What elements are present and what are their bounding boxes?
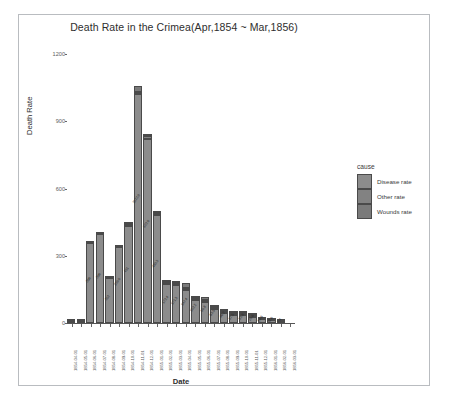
x-tick-mark xyxy=(224,324,225,327)
bar-segment-wounds-rate xyxy=(182,283,190,288)
legend-item-other-rate[interactable]: Other rate xyxy=(357,189,429,204)
x-tick-label: 1855-12-01 xyxy=(263,350,268,371)
x-tick-label: 1854-08-01 xyxy=(111,350,116,371)
y-tick-label: 600 xyxy=(56,186,65,192)
bar-1854-07-01[interactable]: 396 xyxy=(96,232,104,323)
bar-segment-disease-rate xyxy=(86,243,94,323)
bar-1855-08-01[interactable]: 46.2 xyxy=(220,309,228,323)
bar-segment-other-rate xyxy=(162,282,170,284)
bar-segment-disease-rate xyxy=(210,309,218,323)
bar-1855-06-01[interactable]: 95.8 xyxy=(201,297,209,323)
bar-series-container: 356396202339.84311022.8822.8480.3172.417… xyxy=(67,43,295,323)
bar-segment-disease-rate xyxy=(172,285,180,323)
legend-item-wounds-rate[interactable]: Wounds rate xyxy=(357,204,429,219)
bar-1854-06-01[interactable]: 356 xyxy=(86,241,94,323)
x-tick-label: 1854-04-01 xyxy=(73,350,78,371)
bar-1854-10-01[interactable]: 431 xyxy=(124,222,132,323)
legend-swatch xyxy=(357,189,372,204)
bar-segment-disease-rate xyxy=(96,234,104,323)
x-tick-mark xyxy=(119,324,120,327)
bar-segment-disease-rate xyxy=(182,290,190,323)
bar-segment-other-rate xyxy=(115,245,123,247)
x-tick-label: 1855-01-01 xyxy=(159,350,164,371)
legend-title: cause xyxy=(357,163,429,170)
legend-label: Disease rate xyxy=(377,178,412,185)
bar-1854-08-01[interactable]: 202 xyxy=(105,276,113,323)
bar-1855-03-01[interactable]: 171.3 xyxy=(172,281,180,323)
x-tick-mark xyxy=(176,324,177,327)
bar-1855-10-01[interactable]: 33.8 xyxy=(239,311,247,323)
x-tick-mark xyxy=(157,324,158,327)
bar-segment-wounds-rate xyxy=(143,134,151,136)
x-tick-label: 1855-03-01 xyxy=(178,350,183,371)
bar-1855-04-01[interactable]: 147.4 xyxy=(182,283,190,323)
bar-1854-09-01[interactable]: 339.8 xyxy=(115,245,123,323)
x-tick-mark xyxy=(243,324,244,327)
x-tick-label: 1855-04-01 xyxy=(187,350,192,371)
bar-segment-wounds-rate xyxy=(248,313,256,315)
x-tick-label: 1854-06-01 xyxy=(92,350,97,371)
x-tick-label: 1855-05-01 xyxy=(197,350,202,371)
x-tick-label: 1854-09-01 xyxy=(121,350,126,371)
bar-segment-disease-rate xyxy=(201,302,209,323)
x-tick-mark xyxy=(167,324,168,327)
bar-segment-disease-rate xyxy=(115,247,123,323)
x-tick-label: 1856-03-01 xyxy=(292,350,297,371)
y-tick-label: 1200 xyxy=(53,51,65,57)
x-tick-label: 1855-06-01 xyxy=(206,350,211,371)
bar-segment-other-rate xyxy=(124,224,132,226)
bar-segment-wounds-rate xyxy=(162,280,170,282)
y-tick-label: 300 xyxy=(56,253,65,259)
x-tick-mark xyxy=(81,324,82,327)
bar-segment-other-rate xyxy=(191,298,199,300)
x-tick-label: 1855-07-01 xyxy=(216,350,221,371)
x-tick-label: 1855-02-01 xyxy=(168,350,173,371)
x-tick-label: 1856-01-01 xyxy=(273,350,278,371)
bar-1854-12-01[interactable]: 822.8 xyxy=(143,134,151,323)
bar-segment-other-rate xyxy=(86,241,94,243)
x-tick-mark xyxy=(233,324,234,327)
bar-1855-01-01[interactable]: 480.3 xyxy=(153,211,161,323)
bar-segment-other-rate xyxy=(220,311,228,313)
legend: cause Disease rateOther rateWounds rate xyxy=(357,163,429,219)
x-tick-mark xyxy=(138,324,139,327)
bar-1855-05-01[interactable]: 102.2 xyxy=(191,296,199,323)
bar-segment-other-rate xyxy=(229,313,237,315)
bar-segment-other-rate xyxy=(258,317,266,319)
x-tick-label: 1854-12-01 xyxy=(149,350,154,371)
bar-segment-wounds-rate xyxy=(239,311,247,313)
bar-segment-disease-rate xyxy=(124,226,132,323)
legend-items: Disease rateOther rateWounds rate xyxy=(357,174,429,219)
x-tick-mark xyxy=(186,324,187,327)
bar-segment-other-rate xyxy=(267,318,275,320)
legend-label: Wounds rate xyxy=(377,208,412,215)
bar-segment-other-rate xyxy=(105,276,113,278)
bar-segment-other-rate xyxy=(153,213,161,215)
bar-1855-11-01[interactable]: 25.6 xyxy=(248,313,256,323)
bar-segment-disease-rate xyxy=(153,215,161,323)
bar-1855-02-01[interactable]: 172.4 xyxy=(162,280,170,323)
x-tick-mark xyxy=(148,324,149,327)
x-tick-label: 1855-11-01 xyxy=(254,350,259,371)
chart-title: Death Rate in the Crimea(Apr,1854 ~ Mar,… xyxy=(19,21,349,33)
x-tick-mark xyxy=(252,324,253,327)
bar-segment-wounds-rate xyxy=(191,296,199,298)
bar-segment-disease-rate xyxy=(220,313,228,323)
bar-segment-disease-rate xyxy=(134,94,142,323)
x-tick-mark xyxy=(205,324,206,327)
bar-segment-other-rate xyxy=(239,313,247,315)
x-axis-tickmarks xyxy=(67,324,295,328)
bar-1855-09-01[interactable]: 37.5 xyxy=(229,311,237,323)
x-tick-mark xyxy=(91,324,92,327)
bar-1855-07-01[interactable]: 63.5 xyxy=(210,305,218,323)
x-tick-mark xyxy=(262,324,263,327)
x-axis-tick-labels: 1854-04-011854-05-011854-06-011854-07-01… xyxy=(67,329,295,375)
legend-swatch xyxy=(357,204,372,219)
legend-item-disease-rate[interactable]: Disease rate xyxy=(357,174,429,189)
x-tick-label: 1856-02-01 xyxy=(282,350,287,371)
bar-1854-11-01[interactable]: 1022.8 xyxy=(134,86,142,323)
x-tick-mark xyxy=(271,324,272,327)
x-tick-mark xyxy=(110,324,111,327)
bar-segment-wounds-rate xyxy=(172,281,180,283)
bar-segment-disease-rate xyxy=(105,278,113,323)
